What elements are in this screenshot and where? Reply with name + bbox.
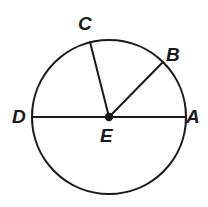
point-label-a: A <box>186 107 200 126</box>
point-label-e: E <box>100 126 113 145</box>
point-label-d: D <box>12 107 26 126</box>
radius-segment-ec <box>90 42 109 117</box>
circle-geometry-figure: C B D A E <box>0 0 208 207</box>
point-label-c: C <box>78 14 92 33</box>
center-point-dot <box>105 113 113 121</box>
radius-segment-eb <box>109 62 163 117</box>
figure-canvas <box>0 0 208 207</box>
point-label-b: B <box>166 45 180 64</box>
